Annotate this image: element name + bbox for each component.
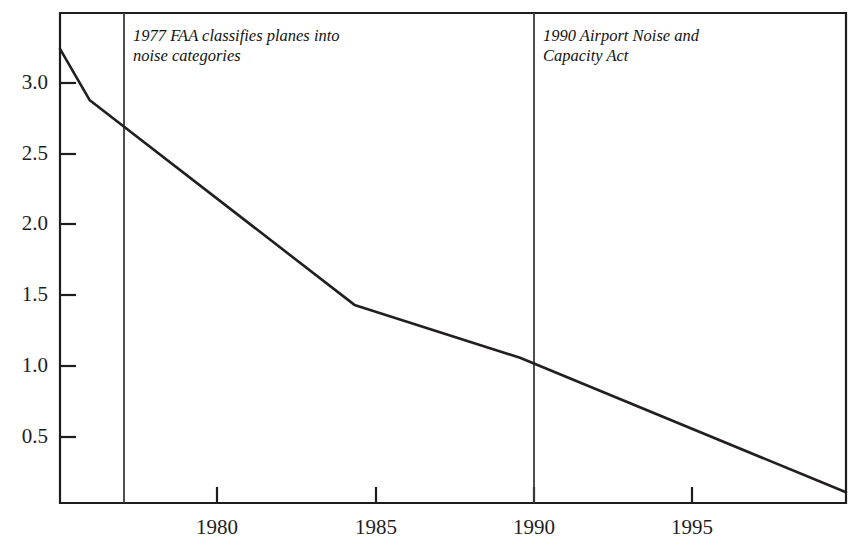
annotation-text-1990: 1990 Airport Noise and Capacity Act (543, 26, 833, 65)
x-axis-ticks (217, 487, 692, 503)
y-tick-label-1-5: 1.5 (0, 284, 48, 305)
y-tick-label-2-5: 2.5 (0, 143, 48, 164)
x-tick-label-1995: 1995 (642, 517, 742, 538)
chart-figure: 3.0 2.5 2.0 1.5 1.0 0.5 1980 1985 1990 1… (0, 0, 858, 550)
x-tick-label-1990: 1990 (484, 517, 584, 538)
data-line-noise-exposure-index (60, 49, 846, 493)
chart-plot-area (0, 0, 858, 550)
y-axis-ticks (60, 83, 76, 437)
y-tick-label-2-0: 2.0 (0, 213, 48, 234)
x-tick-label-1985: 1985 (326, 517, 426, 538)
y-tick-label-1-0: 1.0 (0, 355, 48, 376)
y-tick-label-0-5: 0.5 (0, 426, 48, 447)
y-tick-label-3-0: 3.0 (0, 72, 48, 93)
annotation-text-1977: 1977 FAA classifies planes into noise ca… (133, 26, 433, 65)
x-tick-label-1980: 1980 (167, 517, 267, 538)
plot-frame (60, 13, 846, 503)
